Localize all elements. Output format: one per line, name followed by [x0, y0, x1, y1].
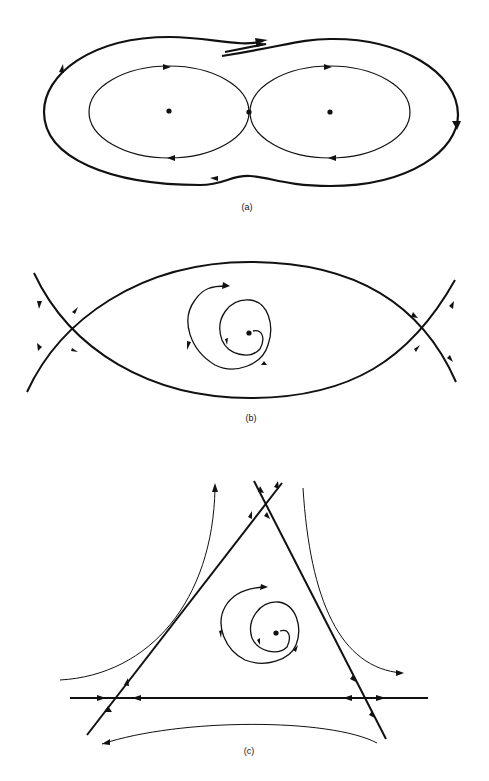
flow-bottom — [102, 724, 377, 744]
lower-separatrix — [34, 273, 455, 398]
saddle-point — [246, 109, 251, 114]
upper-separatrix — [27, 262, 456, 392]
flow-right — [303, 488, 402, 673]
panel-c-label: (c) — [244, 746, 255, 756]
right-separatrix-line — [254, 481, 386, 739]
spiral-focus-point-c — [273, 630, 278, 635]
center-point-left — [166, 108, 171, 113]
panel-a-label: (a) — [242, 202, 253, 212]
center-point-right — [327, 109, 332, 114]
panel-b-label: (b) — [246, 413, 257, 423]
spiral-focus-point — [246, 330, 251, 335]
spiral-trajectory-c — [221, 587, 299, 663]
panel-b — [27, 262, 456, 398]
flow-left — [60, 488, 215, 680]
phase-portrait-figure — [0, 0, 489, 781]
panel-c — [60, 481, 428, 745]
spiral-trajectory — [188, 286, 271, 369]
panel-a — [44, 37, 461, 186]
